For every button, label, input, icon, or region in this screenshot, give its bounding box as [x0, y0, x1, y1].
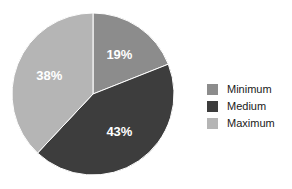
pie-slice-value-minimum: 19% — [106, 47, 132, 62]
pie-chart-svg: 19%43%38% — [0, 0, 190, 189]
legend-label-maximum: Maximum — [227, 117, 275, 130]
legend-swatch-maximum — [207, 118, 218, 129]
pie-slices-group — [12, 13, 174, 175]
pie-chart-plot-area: 19%43%38% — [0, 0, 190, 189]
legend-swatch-medium — [207, 101, 218, 112]
pie-chart-figure: 19%43%38% Minimum Medium Maximum — [0, 0, 292, 189]
legend-label-medium: Medium — [227, 100, 266, 113]
chart-legend: Minimum Medium Maximum — [207, 82, 292, 133]
legend-label-minimum: Minimum — [227, 83, 272, 96]
pie-slice-value-medium: 43% — [106, 124, 132, 139]
legend-item-medium[interactable]: Medium — [207, 99, 292, 114]
legend-swatch-minimum — [207, 84, 218, 95]
legend-item-minimum[interactable]: Minimum — [207, 82, 292, 97]
legend-item-maximum[interactable]: Maximum — [207, 116, 292, 131]
pie-slice-value-maximum: 38% — [36, 68, 62, 83]
